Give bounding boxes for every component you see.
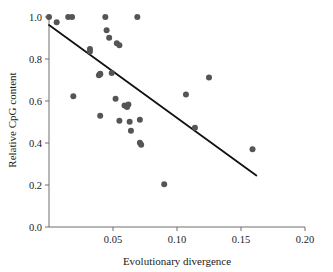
data-point xyxy=(46,14,52,20)
x-axis-title: Evolutionary divergence xyxy=(123,255,231,267)
data-point xyxy=(104,27,110,33)
y-tick-label: 0.6 xyxy=(29,96,42,107)
regression-line xyxy=(49,25,256,176)
scatter-plot-figure: 0.050.100.150.20 0.00.20.40.60.81.0 Evol… xyxy=(0,0,333,272)
x-tick-label: 0.10 xyxy=(168,234,186,245)
data-point xyxy=(97,113,103,119)
y-tick-label: 1.0 xyxy=(29,12,42,23)
data-point xyxy=(102,14,108,20)
data-point xyxy=(87,48,93,54)
x-tick-label: 0.20 xyxy=(296,234,314,245)
data-point xyxy=(138,142,144,148)
data-point xyxy=(206,74,212,80)
tick-marks-layer xyxy=(45,17,305,231)
y-tick-label: 0.4 xyxy=(29,138,43,149)
data-point xyxy=(116,42,122,48)
y-tick-label: 0.0 xyxy=(29,222,42,233)
data-point xyxy=(127,119,133,125)
data-point xyxy=(137,117,143,123)
y-tick-label: 0.2 xyxy=(29,180,42,191)
data-point xyxy=(113,96,119,102)
data-point xyxy=(106,35,112,41)
plot-canvas: 0.050.100.150.20 0.00.20.40.60.81.0 Evol… xyxy=(0,0,333,272)
data-point xyxy=(134,14,140,20)
y-tick-label: 0.8 xyxy=(29,54,42,65)
data-point xyxy=(183,91,189,97)
data-point xyxy=(69,14,75,20)
data-point xyxy=(128,128,134,134)
data-point xyxy=(161,181,167,187)
x-tick-label: 0.05 xyxy=(104,234,122,245)
y-axis-title: Relative CpG content xyxy=(6,72,18,167)
data-point xyxy=(125,102,131,108)
regression-line-segment xyxy=(49,25,256,176)
data-point xyxy=(97,71,103,77)
x-tick-label: 0.15 xyxy=(232,234,250,245)
data-point xyxy=(192,125,198,131)
data-point xyxy=(54,19,60,25)
y-axis-tick-labels: 0.00.20.40.60.81.0 xyxy=(29,12,43,233)
data-points-layer xyxy=(46,14,256,187)
data-point xyxy=(250,146,256,152)
data-point xyxy=(116,118,122,124)
x-axis-tick-labels: 0.050.100.150.20 xyxy=(104,234,314,245)
data-point xyxy=(70,93,76,99)
data-point xyxy=(109,70,115,76)
